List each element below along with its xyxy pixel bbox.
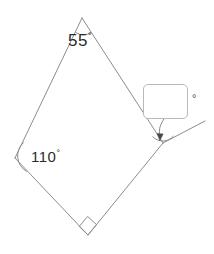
answer-input-box[interactable] <box>143 84 188 119</box>
leader-line <box>159 119 164 136</box>
quadrilateral-figure <box>0 0 214 254</box>
edge-left-to-bottom <box>15 158 88 235</box>
leader-arrowhead <box>157 134 163 141</box>
apex-angle-label: 55° <box>68 32 92 49</box>
exterior-angle-arc <box>153 136 174 141</box>
left-angle-label: 110° <box>31 149 60 164</box>
left-angle-arc <box>18 143 27 172</box>
answer-degree-symbol: ° <box>192 92 196 104</box>
right-angle-square-marker <box>79 216 96 235</box>
left-angle-degree-symbol: ° <box>56 148 60 158</box>
geometry-diagram-canvas: 55° 110° ° <box>0 0 214 254</box>
left-angle-value: 110 <box>31 148 56 165</box>
edge-bottom-to-right <box>88 143 163 235</box>
edge-right-to-apex <box>82 18 163 143</box>
apex-angle-value: 55 <box>68 31 88 50</box>
apex-angle-degree-symbol: ° <box>88 31 92 41</box>
